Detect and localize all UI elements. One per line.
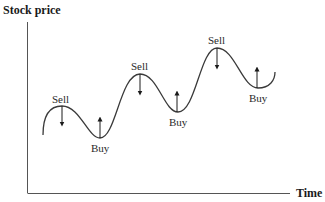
stock-price-diagram: Stock price Time Sell Buy Sell Buy Sell …	[0, 0, 325, 202]
buy-label: Buy	[169, 116, 188, 128]
buy-label: Buy	[91, 142, 110, 154]
price-curve	[43, 48, 275, 138]
buy-signal-2: Buy	[169, 93, 188, 128]
buy-signal-1: Buy	[91, 119, 110, 154]
sell-signal-1: Sell	[52, 93, 69, 124]
sell-label: Sell	[131, 60, 148, 72]
sell-label: Sell	[52, 93, 69, 105]
sell-label: Sell	[208, 34, 225, 46]
y-axis-label: Stock price	[3, 3, 61, 17]
buy-label: Buy	[249, 92, 268, 104]
x-axis-label: Time	[296, 186, 323, 200]
